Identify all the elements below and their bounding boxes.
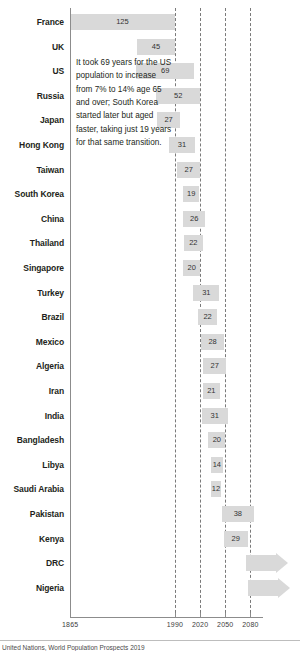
bar-kenya: [224, 531, 248, 547]
axis-label-2080: 2080: [242, 621, 258, 628]
chart-row: South Korea19: [0, 182, 300, 206]
row-label-algeria: Algeria: [0, 354, 64, 378]
bar-india: [202, 408, 228, 424]
chart-row: Kenya29: [0, 527, 300, 551]
row-label-south-korea: South Korea: [0, 182, 64, 206]
source-note: United Nations, World Population Prospec…: [2, 644, 298, 651]
chart-row: Iran21: [0, 379, 300, 403]
row-label-bangladesh: Bangladesh: [0, 428, 64, 452]
row-label-pakistan: Pakistan: [0, 502, 64, 526]
arrow-shaft: [248, 580, 278, 596]
chart-row: Mexico28: [0, 330, 300, 354]
bar-taiwan: [177, 162, 200, 178]
chart-row: UK45: [0, 35, 300, 59]
arrow-head-icon: [278, 578, 290, 598]
row-label-taiwan: Taiwan: [0, 158, 64, 182]
chart-row: Nigeria: [0, 576, 300, 600]
axis-tick-2020: [200, 613, 201, 618]
axis-label-1865: 1865: [62, 621, 78, 628]
chart-annotation: It took 69 years for the US population t…: [76, 56, 172, 149]
bar-libya: [211, 457, 223, 473]
axis-tick-2050: [225, 613, 226, 618]
axis-tick-1865: [70, 613, 71, 618]
bar-iran: [203, 383, 221, 399]
chart-row: France125: [0, 10, 300, 34]
chart-row: Brazil22: [0, 305, 300, 329]
chart-row: Bangladesh20: [0, 428, 300, 452]
row-label-drc: DRC: [0, 551, 64, 575]
row-label-russia: Russia: [0, 84, 64, 108]
chart-row: India31: [0, 404, 300, 428]
chart-row: Taiwan27: [0, 158, 300, 182]
axis-tick-1990: [175, 613, 176, 618]
bar-mexico: [201, 334, 224, 350]
y-axis-line: [70, 8, 71, 618]
row-label-uk: UK: [0, 35, 64, 59]
row-label-libya: Libya: [0, 453, 64, 477]
axis-tick-2080: [250, 613, 251, 618]
row-label-hong-kong: Hong Kong: [0, 133, 64, 157]
row-label-france: France: [0, 10, 64, 34]
row-label-japan: Japan: [0, 108, 64, 132]
footer-divider: [0, 640, 300, 641]
arrow-head-icon: [276, 553, 288, 573]
row-label-iran: Iran: [0, 379, 64, 403]
population-aging-chart: France125UK45US69Russia52Japan27Hong Kon…: [0, 0, 300, 654]
bar-pakistan: [222, 506, 254, 522]
bar-singapore: [183, 260, 200, 276]
axis-label-2020: 2020: [192, 621, 208, 628]
row-label-singapore: Singapore: [0, 256, 64, 280]
row-label-india: India: [0, 404, 64, 428]
bar-france: [70, 14, 175, 30]
axis-label-1990: 1990: [167, 621, 183, 628]
row-label-saudi-arabia: Saudi Arabia: [0, 477, 64, 501]
row-label-kenya: Kenya: [0, 527, 64, 551]
chart-row: Libya14: [0, 453, 300, 477]
row-label-nigeria: Nigeria: [0, 576, 64, 600]
bar-hong-kong: [169, 137, 195, 153]
row-label-us: US: [0, 59, 64, 83]
chart-row: Algeria27: [0, 354, 300, 378]
chart-row: Singapore20: [0, 256, 300, 280]
chart-row: Saudi Arabia12: [0, 477, 300, 501]
arrow-shaft: [246, 555, 276, 571]
chart-row: Pakistan38: [0, 502, 300, 526]
axis-label-2050: 2050: [217, 621, 233, 628]
chart-row: DRC: [0, 551, 300, 575]
bar-brazil: [198, 309, 216, 325]
row-label-mexico: Mexico: [0, 330, 64, 354]
bar-china: [183, 211, 205, 227]
row-label-thailand: Thailand: [0, 231, 64, 255]
chart-row: Thailand22: [0, 231, 300, 255]
row-label-brazil: Brazil: [0, 305, 64, 329]
row-label-china: China: [0, 207, 64, 231]
bar-thailand: [184, 235, 202, 251]
row-label-turkey: Turkey: [0, 281, 64, 305]
bar-saudi-arabia: [211, 481, 221, 497]
x-axis-line: [70, 617, 263, 618]
bar-algeria: [203, 358, 226, 374]
chart-row: Turkey31: [0, 281, 300, 305]
bar-uk: [137, 39, 175, 55]
bar-bangladesh: [208, 432, 225, 448]
bar-turkey: [193, 285, 219, 301]
chart-row: China26: [0, 207, 300, 231]
bar-south-korea: [183, 186, 199, 202]
